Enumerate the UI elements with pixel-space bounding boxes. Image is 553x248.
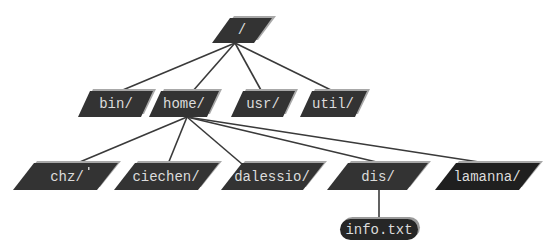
node-label-dis: dis/ [361, 169, 395, 185]
tree-edges [75, 43, 492, 220]
edge-root-home [192, 43, 235, 92]
edge-root-bin [118, 43, 235, 92]
stray-tick-mark [88, 167, 90, 170]
node-dalessio[interactable]: dalessio/ [221, 161, 327, 190]
node-label-dalessio: dalessio/ [234, 169, 310, 185]
edge-home-dis [187, 117, 385, 164]
directory-tree-diagram: / bin/ home/ usr/ util/ chz/ ciechen/ da… [0, 0, 553, 248]
node-label-home: home/ [163, 96, 205, 112]
node-label-root: / [238, 22, 246, 38]
node-label-util: util/ [312, 96, 354, 112]
node-root[interactable]: / [212, 16, 276, 43]
node-util[interactable]: util/ [300, 89, 370, 117]
node-ciechen[interactable]: ciechen/ [114, 161, 222, 190]
node-label-info: info.txt [345, 222, 412, 238]
node-home[interactable]: home/ [149, 89, 222, 117]
node-label-chz: chz/ [50, 169, 84, 185]
node-lamanna[interactable]: lamanna/ [435, 161, 543, 190]
node-info-file[interactable]: info.txt [340, 217, 420, 240]
node-dis[interactable]: dis/ [327, 161, 431, 190]
node-label-usr: usr/ [246, 96, 280, 112]
node-label-bin: bin/ [99, 96, 133, 112]
edge-root-util [235, 43, 335, 92]
node-label-ciechen: ciechen/ [132, 169, 199, 185]
node-bin[interactable]: bin/ [78, 89, 156, 117]
node-chz[interactable]: chz/ [13, 161, 121, 190]
node-label-lamanna: lamanna/ [453, 169, 520, 185]
node-usr[interactable]: usr/ [231, 89, 298, 117]
